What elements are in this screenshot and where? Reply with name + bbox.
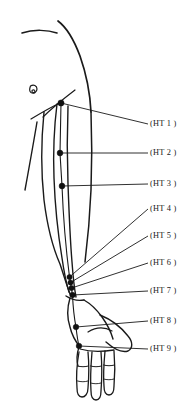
- acupoint-label-ht8: (HT 8 ): [150, 317, 176, 325]
- acupoint-label-ht5: (HT 5 ): [150, 232, 176, 240]
- acupuncture-chart-figure: (HT 1 ) (HT 2 ) (HT 3 ) (HT 4 ) (HT 5 ) …: [0, 0, 188, 401]
- nipple-icon-outer: [30, 85, 37, 93]
- leader-line-ht9: [79, 346, 148, 349]
- acupoint-label-ht1: (HT 1 ): [150, 120, 176, 128]
- acupoint-dot-ht5[interactable]: [68, 280, 73, 285]
- finger-middle-crease: [91, 366, 102, 367]
- finger-index-outline: [77, 352, 89, 397]
- acupoint-label-ht2: (HT 2 ): [150, 149, 176, 157]
- leader-line-group: [60, 103, 148, 349]
- leader-line-ht1: [61, 103, 148, 124]
- anatomy-outline-group: [22, 21, 132, 400]
- finger-index-crease-lower: [78, 381, 89, 382]
- arm-outer-contour-upper: [25, 122, 37, 190]
- knuckle-line: [80, 349, 114, 351]
- acupoint-label-ht9: (HT 9 ): [150, 345, 176, 353]
- clavicle-line: [22, 30, 57, 33]
- acupoint-dot-ht1[interactable]: [58, 100, 64, 106]
- leader-line-ht7: [73, 291, 149, 295]
- finger-middle-outline: [91, 352, 102, 400]
- finger-ring-crease-lower: [104, 379, 115, 380]
- acupoint-label-ht7: (HT 7 ): [150, 287, 176, 295]
- acupoint-label-ht4: (HT 4 ): [150, 205, 176, 213]
- acupoint-label-ht6: (HT 6 ): [150, 259, 176, 267]
- nipple-icon-inner: [32, 90, 35, 93]
- acupoint-dot-ht3[interactable]: [59, 183, 65, 189]
- palm-arc-crease: [88, 328, 112, 332]
- finger-middle-crease-lower: [91, 383, 102, 384]
- acupoint-dot-ht4[interactable]: [67, 274, 72, 279]
- finger-ring-crease: [104, 365, 115, 366]
- acupoint-dot-ht2[interactable]: [57, 150, 63, 156]
- torso-side-contour: [85, 112, 92, 262]
- acupoint-dot-ht6[interactable]: [69, 285, 74, 290]
- acupoint-dot-ht9[interactable]: [76, 343, 82, 349]
- finger-ring-outline: [104, 351, 115, 395]
- neck-shoulder-contour: [58, 21, 91, 112]
- acupoint-dot-ht7[interactable]: [70, 292, 76, 298]
- acupoint-label-ht3: (HT 3 ): [150, 180, 176, 188]
- finger-index-crease: [78, 366, 89, 367]
- leader-line-ht3: [62, 184, 148, 186]
- anatomy-drawing: [0, 0, 188, 401]
- acupoint-dot-ht8[interactable]: [73, 324, 79, 330]
- meridian-segment-upper-arm: [60, 103, 62, 186]
